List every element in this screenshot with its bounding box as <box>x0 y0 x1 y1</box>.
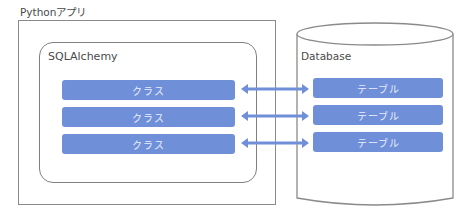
arrow-icon <box>241 138 309 148</box>
arrow-icon <box>241 84 309 94</box>
arrow-icon <box>241 111 309 121</box>
bidirectional-arrows <box>0 0 473 212</box>
